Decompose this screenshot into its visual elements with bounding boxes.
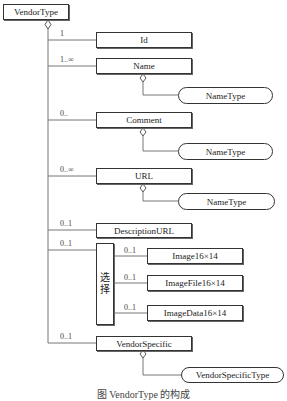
option-label: ImageData16×14 [164, 308, 227, 318]
type-nametype-pill: NameType [178, 193, 275, 210]
type-label: NameType [206, 147, 245, 157]
multiplicity-imagedata: 0..1 [124, 304, 136, 312]
type-nametype-pill: NameType [178, 87, 273, 104]
type-label: NameType [206, 91, 245, 101]
element-descriptionurl-box: DescriptionURL [96, 223, 192, 238]
option-imagedata-box: ImageData16×14 [147, 305, 243, 321]
type-label: VendorSpecificType [196, 370, 269, 380]
multiplicity-id: 1 [60, 30, 64, 38]
figure-caption: 图 VendorType 的构成 [0, 386, 287, 401]
element-id-box: Id [96, 32, 192, 48]
multiplicity-url: 0..∞ [60, 166, 74, 174]
type-nametype-pill: NameType [178, 143, 273, 160]
option-label: ImageFile16×14 [165, 278, 225, 288]
option-imagefile-box: ImageFile16×14 [147, 275, 243, 291]
type-vendorspecifictype-pill: VendorSpecificType [181, 367, 284, 383]
choice-label-1: 选 [100, 272, 110, 284]
element-label: URL [135, 171, 153, 181]
multiplicity-vendorspecific: 0..1 [60, 333, 72, 341]
type-label: NameType [207, 197, 246, 207]
option-image-box: Image16×14 [147, 248, 243, 264]
element-name-box: Name [96, 58, 192, 74]
multiplicity-descriptionurl: 0..1 [60, 220, 72, 228]
choice-label-2: 择 [100, 284, 110, 296]
element-label: Id [140, 35, 148, 45]
element-label: Name [133, 61, 155, 71]
element-label: Comment [126, 115, 162, 125]
multiplicity-comment: 0.. [60, 110, 68, 118]
element-comment-box: Comment [96, 112, 192, 128]
option-label: Image16×14 [172, 251, 218, 261]
root-vendortype-box: VendorType [3, 4, 69, 20]
multiplicity-image: 0..1 [124, 247, 136, 255]
multiplicity-imagefile: 0..1 [124, 274, 136, 282]
aggregation-diamond [45, 20, 51, 29]
element-label: VendorSpecific [116, 339, 171, 349]
choice-box: 选 择 [96, 243, 114, 325]
multiplicity-name: 1..∞ [60, 56, 74, 64]
multiplicity-choice: 0..1 [60, 240, 72, 248]
root-label: VendorType [14, 7, 58, 17]
element-url-box: URL [96, 168, 192, 184]
element-label: DescriptionURL [114, 226, 174, 236]
element-vendorspecific-box: VendorSpecific [96, 336, 192, 351]
